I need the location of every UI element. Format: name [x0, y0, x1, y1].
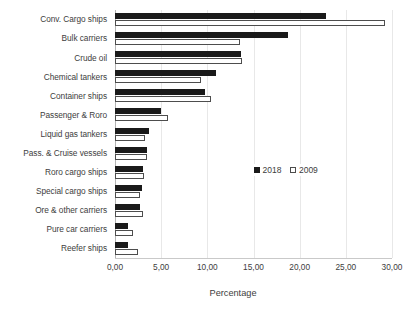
- gridline: [392, 10, 393, 258]
- bar-rows: [115, 10, 392, 258]
- bar-group: [115, 182, 392, 201]
- bar-2018: [115, 108, 161, 114]
- bar-2009: [115, 39, 240, 45]
- bar-group: [115, 105, 392, 124]
- bar-chart: Conv. Cargo ships Bulk carriers Crude oi…: [0, 0, 406, 316]
- y-axis-tick-label: Roro cargo ships: [0, 163, 112, 182]
- bar-2009: [115, 230, 133, 236]
- bar-2009: [115, 96, 211, 102]
- bar-2018: [115, 242, 128, 248]
- legend-entry-2018: 2018: [254, 165, 281, 175]
- bar-2009: [115, 58, 242, 64]
- x-axis-tick-labels: 0,005,0010,0015,0020,0025,0030,00: [115, 262, 392, 276]
- x-axis-title: Percentage: [0, 288, 406, 298]
- y-axis-tick-label: Bulk carriers: [0, 29, 112, 48]
- bar-group: [115, 86, 392, 105]
- bar-group: [115, 239, 392, 258]
- bar-2018: [115, 89, 205, 95]
- legend-label: 2018: [263, 165, 282, 175]
- y-axis-tick-label: Chemical tankers: [0, 67, 112, 86]
- x-axis-tick-label: 15,00: [243, 262, 264, 272]
- bar-2009: [115, 192, 140, 198]
- legend-swatch-icon: [254, 167, 260, 173]
- x-axis-tick-label: 30,00: [382, 262, 403, 272]
- x-axis-tick-label: 20,00: [289, 262, 310, 272]
- bar-2018: [115, 166, 143, 172]
- bar-2009: [115, 20, 385, 26]
- y-axis-tick-label: Pure car carriers: [0, 220, 112, 239]
- bar-2009: [115, 154, 147, 160]
- bar-2018: [115, 185, 142, 191]
- x-axis-tick-label: 25,00: [335, 262, 356, 272]
- legend-entry-2009: 2009: [290, 165, 317, 175]
- bar-2018: [115, 51, 241, 57]
- chart-legend: 2018 2009: [252, 164, 320, 176]
- bar-group: [115, 124, 392, 143]
- y-axis-category-labels: Conv. Cargo ships Bulk carriers Crude oi…: [0, 10, 112, 258]
- x-axis-tick-label: 5,00: [153, 262, 169, 272]
- bar-2009: [115, 77, 201, 83]
- y-axis-tick-label: Passenger & Roro: [0, 105, 112, 124]
- bar-group: [115, 10, 392, 29]
- plot-area: [115, 10, 392, 258]
- bar-2009: [115, 135, 145, 141]
- bar-group: [115, 144, 392, 163]
- bar-2018: [115, 32, 288, 38]
- bar-group: [115, 48, 392, 67]
- bar-2018: [115, 223, 128, 229]
- y-axis-tick-label: Pass. & Cruise vessels: [0, 144, 112, 163]
- x-axis-tick-label: 0,00: [107, 262, 123, 272]
- bar-2018: [115, 13, 326, 19]
- bar-group: [115, 220, 392, 239]
- bar-2018: [115, 147, 147, 153]
- y-axis-tick-label: Ore & other carriers: [0, 201, 112, 220]
- x-axis-title-text: Percentage: [150, 288, 257, 298]
- bar-2009: [115, 173, 144, 179]
- y-axis-tick-label: Crude oil: [0, 48, 112, 67]
- y-axis-tick-label: Reefer ships: [0, 239, 112, 258]
- y-axis-tick-label: Conv. Cargo ships: [0, 10, 112, 29]
- bar-2009: [115, 211, 143, 217]
- bar-2018: [115, 204, 140, 210]
- bar-2018: [115, 70, 216, 76]
- bar-group: [115, 67, 392, 86]
- legend-label: 2009: [299, 165, 318, 175]
- y-axis-tick-label: Liquid gas tankers: [0, 124, 112, 143]
- bar-2009: [115, 115, 168, 121]
- bar-2018: [115, 128, 149, 134]
- x-axis-tick-label: 10,00: [197, 262, 218, 272]
- bar-2009: [115, 249, 138, 255]
- y-axis-tick-label: Container ships: [0, 86, 112, 105]
- x-axis-line: [115, 258, 392, 259]
- legend-swatch-icon: [290, 167, 296, 173]
- bar-group: [115, 29, 392, 48]
- y-axis-tick-label: Special cargo ships: [0, 182, 112, 201]
- bar-group: [115, 201, 392, 220]
